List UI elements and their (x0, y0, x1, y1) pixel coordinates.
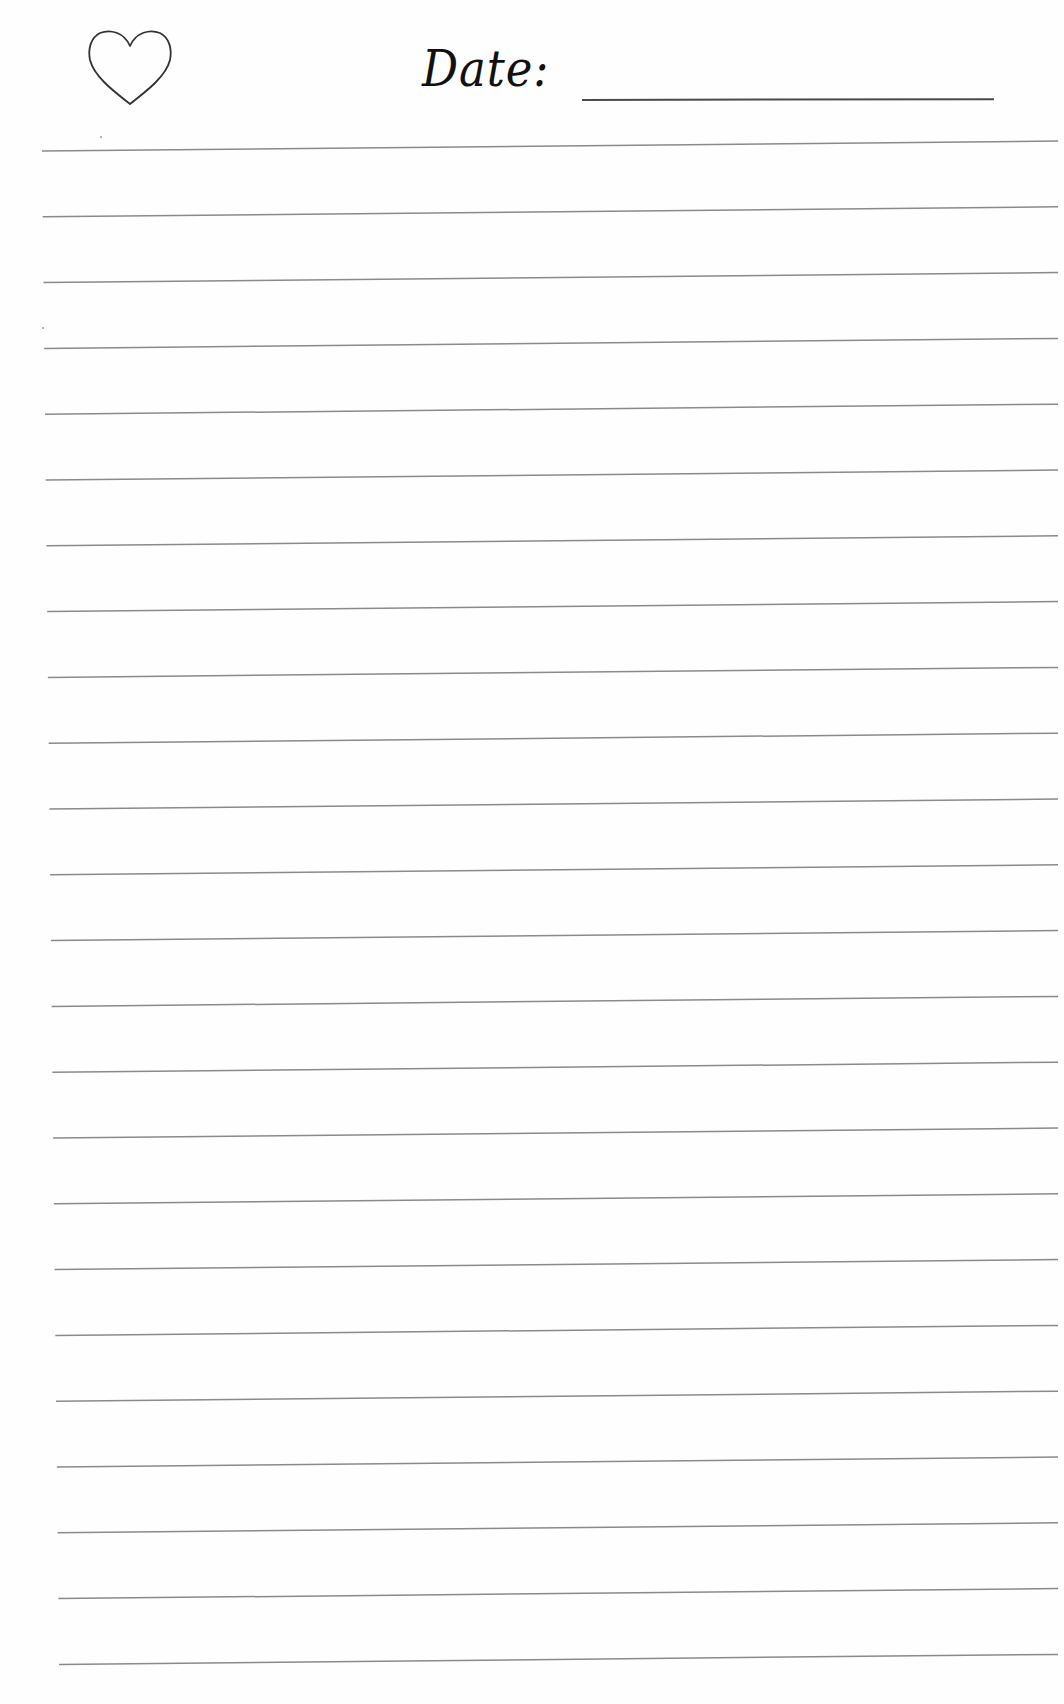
ruled-line (48, 667, 1058, 677)
ruled-line (44, 338, 1058, 348)
ruled-line (42, 141, 1058, 151)
ruled-line (56, 1391, 1058, 1401)
ruled-line (59, 1654, 1058, 1664)
ruled-line (47, 602, 1058, 612)
paper-speck (42, 327, 44, 329)
ruled-line (50, 865, 1058, 875)
ruled-line (46, 536, 1058, 546)
notebook-page: Date: (0, 0, 1064, 1704)
ruled-line (49, 733, 1058, 743)
ruled-line (55, 1325, 1058, 1335)
ruled-line (53, 1128, 1058, 1138)
paper-speck (100, 136, 102, 138)
ruled-line (54, 1194, 1058, 1204)
ruled-line (51, 931, 1058, 941)
ruled-line (58, 1523, 1059, 1533)
ruled-lines (0, 0, 1064, 1704)
ruled-line (57, 1457, 1058, 1467)
ruled-line (45, 404, 1058, 414)
ruled-line (52, 996, 1058, 1006)
ruled-line (43, 207, 1058, 217)
ruled-line (55, 1260, 1058, 1270)
ruled-line (49, 799, 1058, 809)
ruled-line (52, 1062, 1058, 1072)
ruled-line (58, 1589, 1058, 1599)
ruled-line (46, 470, 1058, 480)
ruled-line (44, 273, 1059, 283)
